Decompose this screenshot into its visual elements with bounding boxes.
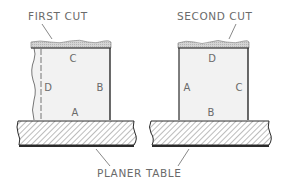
second-cut-material xyxy=(178,41,249,49)
planer-table-leader-left xyxy=(96,149,110,166)
second-cut-leader-line xyxy=(229,24,236,39)
second-cut-view: SECOND CUT D A C B xyxy=(150,10,272,146)
planer-table-right xyxy=(150,121,272,145)
planer-table-label: PLANER TABLE xyxy=(97,167,181,179)
face-label-left: A xyxy=(184,82,191,93)
face-label-bottom: B xyxy=(208,107,215,118)
first-cut-view: FIRST CUT C D B A xyxy=(17,10,136,146)
face-label-right: C xyxy=(236,82,243,93)
face-label-right: B xyxy=(97,82,104,93)
planer-cut-diagram: FIRST CUT C D B A SECOND CUT D A C B xyxy=(0,0,281,188)
face-label-bottom: A xyxy=(72,107,79,118)
first-cut-material xyxy=(31,40,111,48)
face-label-top: C xyxy=(70,53,77,64)
planer-table-callout: PLANER TABLE xyxy=(96,149,189,179)
face-label-left: D xyxy=(44,82,52,93)
first-cut-label: FIRST CUT xyxy=(28,10,88,22)
first-cut-leader-line xyxy=(42,24,52,39)
planer-table-leader-right xyxy=(178,149,189,166)
second-cut-label: SECOND CUT xyxy=(177,10,253,22)
planer-table-left xyxy=(17,121,136,145)
face-label-top: D xyxy=(208,53,216,64)
